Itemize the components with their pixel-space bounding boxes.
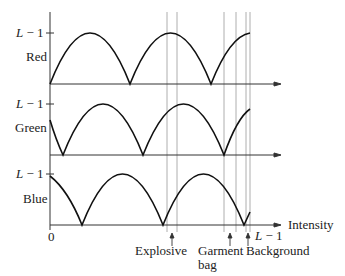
x-end-label: L − 1 xyxy=(254,228,283,243)
color-transform-diagram: L − 1 Red L − 1 Green L − 1 Blue 0 Inten… xyxy=(0,0,345,276)
blue-curve xyxy=(50,174,250,225)
marker-garment-line2: bag xyxy=(198,257,217,272)
red-top-label: L − 1 xyxy=(15,25,44,40)
green-label: Green xyxy=(15,120,47,135)
green-curve xyxy=(50,104,250,155)
red-label: Red xyxy=(26,49,47,64)
marker-garment: Garment xyxy=(198,243,244,258)
green-top-label: L − 1 xyxy=(15,96,44,111)
x-axis-label: Intensity xyxy=(288,217,334,232)
blue-label: Blue xyxy=(23,191,48,206)
origin-label: 0 xyxy=(48,229,55,244)
blue-top-label: L − 1 xyxy=(15,166,44,181)
red-curve xyxy=(50,33,250,84)
marker-explosive: Explosive xyxy=(135,243,187,258)
marker-background: Background xyxy=(246,243,310,258)
curves xyxy=(50,33,250,225)
